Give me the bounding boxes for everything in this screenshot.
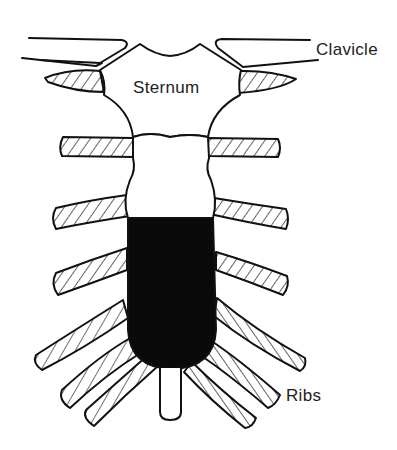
right-rib-4: [216, 252, 288, 295]
left-rib-1: [45, 70, 104, 92]
right-rib-1: [238, 71, 296, 93]
sternum-diagram: [0, 0, 397, 450]
clavicle-label: Clavicle: [316, 40, 378, 60]
sternal-body-shaded: [128, 218, 216, 369]
left-rib-2: [60, 137, 134, 157]
right-rib-3: [210, 198, 288, 229]
left-rib-4: [53, 248, 127, 295]
sternal-body-upper: [125, 134, 215, 218]
ribs-label: Ribs: [286, 386, 321, 406]
left-rib-3: [53, 195, 130, 229]
xiphoid-process: [160, 368, 181, 420]
sternum-label: Sternum: [133, 78, 199, 98]
right-rib-2: [208, 138, 280, 157]
